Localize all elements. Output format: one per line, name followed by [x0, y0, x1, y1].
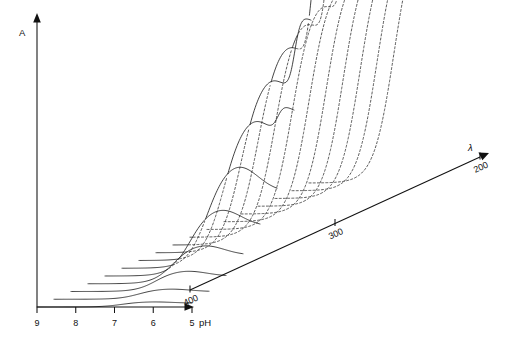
spectrum-curve [139, 259, 178, 260]
ph-tick-label: 8 [73, 318, 78, 328]
spectrum-curve [71, 271, 226, 291]
spectrum-curve [105, 269, 168, 276]
curve-group [37, 0, 464, 307]
ph-ticklabel-group: 98765 [34, 318, 194, 328]
spectrum-curve [250, 19, 311, 125]
spectrum-curve-occluded [258, 0, 395, 206]
label-group: A pH λ [19, 27, 473, 328]
spectrum-curve-occluded [309, 0, 446, 183]
spectrum-curve-occluded [241, 0, 378, 214]
wavelength-tick-label: 200 [472, 160, 490, 175]
spectrum-curve-occluded [169, 259, 178, 268]
occluded-curve-group [169, 0, 446, 268]
ph-tick-label: 7 [112, 318, 117, 328]
absorbance-axis-arrowhead [33, 13, 41, 23]
spectrum-curve-occluded [207, 0, 344, 229]
spectrum-curve-occluded [299, 0, 328, 33]
spectrum-curve [88, 246, 243, 284]
spectrum-curve [271, 48, 295, 82]
spectrum-curve [206, 167, 277, 218]
spectrum-curve [228, 108, 294, 174]
figure-canvas: A pH λ 98765 400300200 [0, 0, 510, 343]
ph-tick-label: 6 [151, 318, 156, 328]
wavelength-tick-label: 400 [182, 293, 200, 308]
spectrum-curve [179, 210, 260, 258]
wavelength-axis-label: λ [467, 142, 473, 153]
ph-axis-label: pH [199, 317, 211, 328]
spectrum-curve [309, 0, 328, 15]
spectrum-curve-occluded [224, 0, 361, 222]
spectrum-curve [122, 265, 172, 268]
ph-tick-label: 9 [34, 318, 39, 328]
ph-tick-label: 5 [189, 318, 194, 328]
spectrum-curve [156, 252, 184, 253]
absorbance-axis-label: A [19, 27, 26, 38]
spectrum-curve-occluded [275, 0, 412, 198]
waterfall-plot: A pH λ 98765 400300200 [0, 0, 510, 343]
spectrum-curve [37, 302, 192, 307]
spectrum-curve-occluded [189, 86, 271, 245]
ph-tick-group [37, 307, 192, 313]
wavelength-ticklabel-group: 400300200 [182, 160, 490, 308]
wavelength-tick-group [190, 153, 480, 293]
wavelength-tick-label: 300 [327, 226, 345, 241]
axes-group [33, 13, 489, 313]
spectrum-curve-occluded [179, 177, 227, 258]
